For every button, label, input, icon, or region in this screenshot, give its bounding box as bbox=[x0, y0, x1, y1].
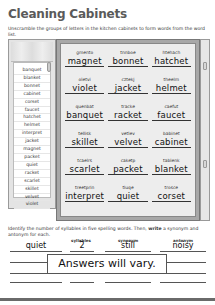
word-list-item: scarlet bbox=[14, 178, 50, 186]
scramble-item: troscecorset bbox=[152, 185, 191, 212]
scramble-item: caketppacket bbox=[108, 158, 147, 185]
answer-field[interactable]: interpret bbox=[65, 191, 104, 202]
scramble-item: htehachhatchet bbox=[152, 50, 191, 77]
answer-field[interactable]: scarlet bbox=[65, 164, 104, 175]
example-word: quiet bbox=[10, 241, 62, 250]
cabinet-door: gmentomagnet tnnboebonnet htehachhatchet… bbox=[60, 43, 196, 217]
answer-line[interactable] bbox=[70, 251, 94, 252]
prompt-emphasis: write bbox=[148, 226, 161, 231]
word-list-item: jacket bbox=[14, 138, 50, 146]
word-list-item: interpret bbox=[14, 130, 50, 138]
kitchen-cabinet: gmentomagnet tnnboebonnet htehachhatchet… bbox=[56, 39, 200, 221]
word-list-item: skillet bbox=[14, 186, 50, 194]
page-title: Cleaning Cabinets bbox=[8, 7, 127, 21]
answer-field[interactable]: packet bbox=[108, 164, 147, 175]
cabinet-hinge-icon bbox=[203, 160, 207, 168]
worksheet-page: Cleaning Cabinets Unscramble the groups … bbox=[0, 0, 215, 305]
scramble-item: cztekjjacket bbox=[108, 77, 147, 104]
word-list-item: hatchet bbox=[14, 114, 50, 122]
scramble-item: quenbatbanquet bbox=[65, 104, 104, 131]
answer-field[interactable]: velvet bbox=[108, 137, 147, 148]
instructions: Unscramble the groups of letters in the … bbox=[8, 26, 208, 38]
word-list-item: helmet bbox=[14, 122, 50, 130]
page-bottom-border bbox=[0, 298, 215, 301]
answer-field[interactable]: bonnet bbox=[108, 56, 147, 67]
answer-field[interactable]: skillet bbox=[65, 137, 104, 148]
scramble-item: tiuqequiet bbox=[108, 185, 147, 212]
scramble-item: vetlevvelvet bbox=[108, 131, 147, 158]
answer-line[interactable] bbox=[10, 251, 62, 252]
scramble-item: tcaelrsscarlet bbox=[65, 158, 104, 185]
word-list-item: banquet bbox=[14, 67, 50, 75]
answer-line[interactable] bbox=[160, 282, 206, 283]
answer-field[interactable]: violet bbox=[65, 83, 104, 94]
word-list-item: quiet bbox=[14, 162, 50, 170]
example-syllables: 2 bbox=[70, 241, 94, 250]
example-synonym: still bbox=[105, 241, 151, 250]
word-list-item: packet bbox=[14, 154, 50, 162]
word-list-item: magnet bbox=[14, 146, 50, 154]
scramble-item: caefutfaucet bbox=[152, 104, 191, 131]
word-list-item: cabinet bbox=[14, 91, 50, 99]
answer-line[interactable] bbox=[105, 282, 151, 283]
word-list-item: faucet bbox=[14, 107, 50, 115]
scramble-item: tablenkblanket bbox=[152, 158, 191, 185]
prompt-text: Identify the number of syllables in five… bbox=[8, 226, 148, 231]
cabinet-side-panel bbox=[200, 39, 210, 221]
scramble-grid: gmentomagnet tnnboebonnet htehachhatchet… bbox=[65, 50, 191, 212]
answer-line[interactable] bbox=[105, 251, 151, 252]
cabinet-handle-icon bbox=[47, 62, 51, 72]
answer-field[interactable]: corset bbox=[152, 191, 191, 202]
scramble-item: oletviviolet bbox=[65, 77, 104, 104]
answer-line[interactable] bbox=[70, 282, 94, 283]
word-list: banquet blanket bonnet cabinet corset fa… bbox=[13, 62, 51, 198]
word-list-item: racket bbox=[14, 170, 50, 178]
answer-line[interactable] bbox=[10, 282, 62, 283]
answer-field[interactable]: banquet bbox=[65, 110, 104, 121]
scramble-item: trackeracket bbox=[108, 104, 147, 131]
answer-line[interactable] bbox=[160, 251, 206, 252]
word-list-item: corset bbox=[14, 99, 50, 107]
scramble-item: telliskskillet bbox=[65, 131, 104, 158]
word-list-item: velvet bbox=[14, 194, 50, 202]
scramble-item: gmentomagnet bbox=[65, 50, 104, 77]
answer-field[interactable]: helmet bbox=[152, 83, 191, 94]
example-antonym: noisy bbox=[160, 241, 206, 250]
syllable-prompt: Identify the number of syllables in five… bbox=[8, 226, 208, 238]
answer-field[interactable]: faucet bbox=[152, 110, 191, 121]
word-list-item: violet bbox=[14, 201, 50, 209]
answer-field[interactable]: jacket bbox=[108, 83, 147, 94]
scramble-item: babinetcabinet bbox=[152, 131, 191, 158]
word-list-item: blanket bbox=[14, 75, 50, 83]
answer-field[interactable]: blanket bbox=[152, 164, 191, 175]
answer-field[interactable]: racket bbox=[108, 110, 147, 121]
word-list-item: bonnet bbox=[14, 83, 50, 91]
answer-field[interactable]: quiet bbox=[108, 191, 147, 202]
cabinet-hinge-icon bbox=[203, 62, 207, 70]
answer-field[interactable]: hatchet bbox=[152, 56, 191, 67]
answer-field[interactable]: cabinet bbox=[152, 137, 191, 148]
curtain-decoration bbox=[11, 42, 53, 62]
scramble-item: treetprininterpret bbox=[65, 185, 104, 212]
scramble-item: theelmhelmet bbox=[152, 77, 191, 104]
answer-field[interactable]: magnet bbox=[65, 56, 104, 67]
answers-will-vary-note: Answers will vary. bbox=[47, 254, 167, 274]
scramble-item: tnnboebonnet bbox=[108, 50, 147, 77]
